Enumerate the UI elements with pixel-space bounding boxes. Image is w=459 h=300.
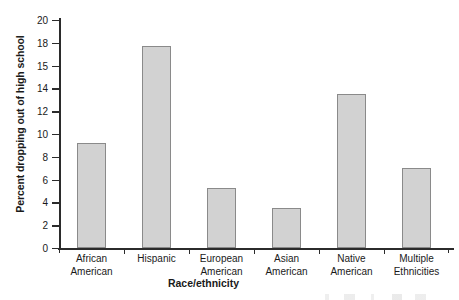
y-tick-mark xyxy=(52,111,59,112)
y-tick-label: 2 xyxy=(42,220,48,231)
y-tick-mark xyxy=(52,20,59,21)
y-tick-mark xyxy=(52,66,59,67)
y-tick-mark xyxy=(52,157,59,158)
y-tick-label: 0 xyxy=(42,243,48,254)
y-tick-label: 15 xyxy=(37,60,48,71)
plot-area: 02468101214151820 xyxy=(59,20,449,248)
page-edge-artifact xyxy=(318,294,438,300)
bar-chart: Percent dropping out of high school 0246… xyxy=(0,0,459,300)
bar xyxy=(272,208,301,248)
y-tick-label: 18 xyxy=(37,37,48,48)
y-tick-mark xyxy=(52,225,59,226)
y-tick-label: 4 xyxy=(42,197,48,208)
x-category-label-line: Multiple xyxy=(374,253,459,266)
bar xyxy=(402,168,431,248)
y-tick-mark xyxy=(52,202,59,203)
x-axis-title-text: Race/ethnicity xyxy=(168,277,239,289)
y-tick-label: 10 xyxy=(37,129,48,140)
x-category-label: MultipleEthnicities xyxy=(374,253,459,278)
bar xyxy=(207,188,236,248)
x-axis-title: Race/ethnicity xyxy=(0,277,459,289)
y-tick-mark xyxy=(52,248,59,249)
y-tick-label: 6 xyxy=(42,174,48,185)
bar xyxy=(77,143,106,248)
y-tick-label: 12 xyxy=(37,106,48,117)
x-axis-line xyxy=(58,248,454,250)
y-tick-mark xyxy=(52,43,59,44)
y-axis-title: Percent dropping out of high school xyxy=(14,8,26,240)
bar xyxy=(142,46,171,248)
bar xyxy=(337,94,366,248)
y-tick-label: 20 xyxy=(37,15,48,26)
y-tick-mark xyxy=(52,134,59,135)
y-tick-mark xyxy=(52,180,59,181)
y-tick-label: 8 xyxy=(42,151,48,162)
y-tick-label: 14 xyxy=(37,83,48,94)
y-tick-mark xyxy=(52,88,59,89)
